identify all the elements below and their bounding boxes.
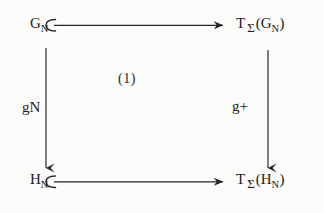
node-top-left-base: G bbox=[30, 15, 41, 31]
node-top-right-sigma: Σ bbox=[245, 20, 256, 35]
edge-label-left: gN bbox=[22, 100, 40, 115]
edge-label-right-base: g bbox=[232, 98, 240, 114]
node-top-right-close-paren: ) bbox=[279, 15, 284, 31]
node-bottom-right: TΣ(HN) bbox=[236, 172, 284, 191]
edge-bottom-inclusion-arrow bbox=[46, 176, 223, 188]
diagram-center-label: (1) bbox=[118, 72, 136, 86]
commutative-diagram-figure: GN TΣ(GN) HN TΣ(HN) gN g+ (1) bbox=[0, 0, 324, 213]
node-top-left: GN bbox=[30, 16, 49, 35]
node-top-left-subscript: N bbox=[41, 23, 49, 34]
edge-top-inclusion-arrow bbox=[46, 20, 223, 32]
node-top-right-functor: T bbox=[236, 15, 245, 31]
node-bottom-left-subscript: N bbox=[41, 179, 49, 190]
edge-label-right: g+ bbox=[232, 99, 248, 114]
node-top-right: TΣ(GN) bbox=[236, 16, 284, 35]
node-bottom-left-base: H bbox=[30, 171, 41, 187]
node-bottom-right-base: H bbox=[261, 171, 272, 187]
node-bottom-right-functor: T bbox=[236, 171, 245, 187]
edge-label-left-subscript: N bbox=[30, 99, 41, 115]
edge-label-right-superscript: + bbox=[240, 98, 248, 114]
node-bottom-left: HN bbox=[30, 172, 49, 191]
node-bottom-right-close-paren: ) bbox=[279, 171, 284, 187]
edge-label-left-base: g bbox=[22, 99, 30, 115]
node-bottom-right-sigma: Σ bbox=[245, 176, 256, 191]
node-top-right-base: G bbox=[261, 15, 272, 31]
